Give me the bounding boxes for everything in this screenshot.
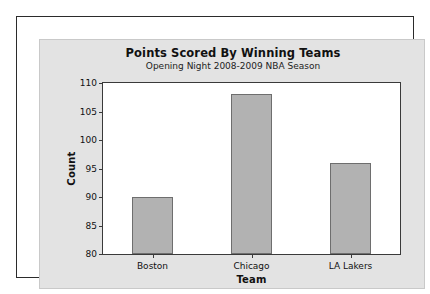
y-axis-tick-label: 80 (86, 249, 97, 259)
y-axis-tick (99, 226, 103, 227)
plot-inner: 80859095100105110BostonChicagoLA Lakers (103, 83, 400, 254)
bar-chicago (231, 94, 272, 254)
y-axis-tick-label: 110 (80, 78, 97, 88)
x-axis-tick (153, 254, 154, 258)
y-axis-tick (99, 83, 103, 84)
y-axis-tick (99, 197, 103, 198)
chart-screenshot: Points Scored By Winning Teams Opening N… (0, 0, 430, 294)
chart-panel: Points Scored By Winning Teams Opening N… (39, 39, 425, 289)
x-axis-tick (351, 254, 352, 258)
bar-boston (132, 197, 173, 254)
y-axis-tick (99, 169, 103, 170)
y-axis-tick (99, 140, 103, 141)
plot-area: 80859095100105110BostonChicagoLA Lakers (102, 82, 401, 255)
y-axis-tick-label: 105 (80, 107, 97, 117)
y-axis-tick (99, 112, 103, 113)
chart-subtitle: Opening Night 2008-2009 NBA Season (40, 61, 426, 71)
x-axis-tick-label: LA Lakers (329, 261, 373, 271)
x-axis-tick (252, 254, 253, 258)
chart-outer-frame: Points Scored By Winning Teams Opening N… (16, 16, 414, 278)
y-axis-tick-label: 100 (80, 135, 97, 145)
x-axis-title: Team (102, 274, 401, 285)
x-axis-tick-label: Chicago (233, 261, 269, 271)
x-axis-tick-label: Boston (137, 261, 168, 271)
bar-la-lakers (330, 163, 371, 254)
y-axis-title: Count (66, 82, 80, 255)
y-axis-tick-label: 90 (86, 192, 97, 202)
y-axis-tick (99, 254, 103, 255)
y-axis-tick-label: 95 (86, 164, 97, 174)
chart-title: Points Scored By Winning Teams (40, 46, 426, 60)
y-axis-tick-label: 85 (86, 221, 97, 231)
